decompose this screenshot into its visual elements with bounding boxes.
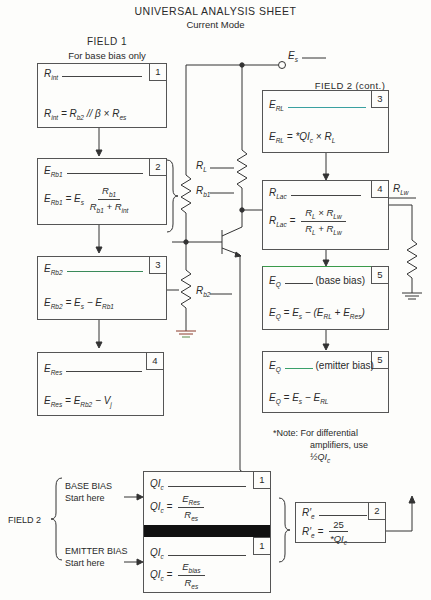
field2-box-eq-base: 5 EQ (base bias) EQ = Es − (ERL + ERes) [262, 266, 389, 330]
rint-formula: Rint = Rb2 // β × Res [44, 108, 126, 121]
emitter-bias-group: EMITTER BIAS Start here [65, 545, 128, 569]
field1-box-rint: 1 Rint Rint = Rb2 // β × Res [37, 63, 167, 128]
step-number: 3 [149, 256, 167, 274]
eq-emitter-formula: EQ = Es − ERL [269, 392, 328, 405]
qic-emitter-input[interactable] [168, 554, 246, 556]
eres-input[interactable] [66, 370, 142, 372]
field2-box-re: 2 R′e R′e = 25*QIc [295, 502, 386, 543]
rint-input[interactable] [62, 75, 142, 77]
step-number: 1 [253, 537, 271, 555]
erb2-input[interactable] [67, 270, 143, 272]
qic-emitter-formula: QIc = EbiasRes [150, 561, 205, 590]
erl-input[interactable] [288, 106, 366, 108]
rb2-resistor-label: Rb2 [196, 285, 210, 298]
field2-box-qic: 1 QIc QIc = EResRes 1 QIc QIc = EbiasRes [143, 471, 271, 593]
field2-box-rlac: 4 RLac RLac = RL × RLwRL + RLw [262, 180, 389, 250]
field2-heading: FIELD 2 [8, 514, 41, 526]
rlac-input[interactable] [291, 194, 361, 196]
rlac-formula: RLac = RL × RLwRL + RLw [269, 207, 346, 236]
eq-base-input[interactable] [285, 282, 313, 284]
erb1-label: ERb1 [44, 165, 143, 178]
erl-formula: ERL = *QIc × RL [269, 131, 335, 144]
field2-box-erl: 3 ERL ERL = *QIc × RL [262, 90, 389, 153]
rb1-resistor-label: Rb1 [196, 185, 210, 198]
eq-emitter-label: EQ (emitter bias) [269, 360, 374, 373]
step-number: 1 [149, 63, 167, 81]
field2-box-eq-emitter: 5 EQ (emitter bias) EQ = Es − ERL [262, 351, 389, 413]
erb2-label: ERb2 [44, 263, 143, 276]
rint-label: Rint [44, 68, 142, 81]
qic-base-input[interactable] [168, 485, 246, 487]
step-number: 4 [146, 352, 164, 370]
base-bias-group: BASE BIAS Start here [65, 480, 112, 504]
re-input[interactable] [319, 514, 367, 516]
field1-box-erb1: 2 ERb1 ERb1 = Es Rb1Rb1 + Rint [37, 158, 167, 225]
load-resistor-label: RL [196, 160, 207, 173]
eres-label: ERes [44, 363, 142, 376]
qic-base-formula: QIc = EResRes [150, 493, 204, 522]
source-voltage-label: Es [288, 50, 298, 63]
step-number: 2 [368, 502, 386, 520]
erb1-formula: ERb1 = Es Rb1Rb1 + Rint [44, 185, 128, 214]
eq-emitter-input[interactable] [285, 367, 313, 369]
step-number: 1 [253, 471, 271, 489]
field1-box-erb2: 3 ERb2 ERb2 = Es − ERb1 [37, 256, 167, 320]
step-number: 2 [149, 158, 167, 176]
differential-note: *Note: For differential amplifiers, use … [273, 427, 368, 467]
rlw-resistor-label: RLw [393, 183, 409, 196]
qic-base-label: QIc [150, 478, 246, 491]
field1-box-eres: 4 ERes ERes = ERb2 − Vj [37, 352, 164, 416]
step-number: 5 [371, 266, 389, 284]
divider-bar [144, 525, 270, 537]
step-number: 4 [371, 180, 389, 198]
erb2-formula: ERb2 = Es − ERb1 [44, 297, 114, 310]
erl-label: ERL [269, 99, 366, 112]
rlac-label: RLac [269, 187, 361, 200]
qic-emitter-label: QIc [150, 547, 246, 560]
erb1-input[interactable] [67, 172, 143, 174]
eres-formula: ERes = ERb2 − Vj [44, 395, 112, 408]
eq-base-formula: EQ = Es − (ERL + ERes) [269, 307, 365, 320]
step-number: 3 [371, 90, 389, 108]
re-formula: R′e = 25*QIc [302, 519, 348, 546]
eq-base-label: EQ (base bias) [269, 275, 365, 288]
